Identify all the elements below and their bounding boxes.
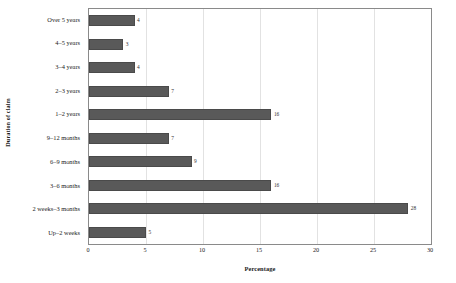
bar-value-label: 5 bbox=[149, 230, 152, 235]
bars-layer: 4 3 4 7 16 7 9 16 28 5 bbox=[89, 9, 431, 244]
x-axis-title: Percentage bbox=[88, 265, 432, 272]
x-axis-tick-labels: 051015202530 bbox=[88, 247, 432, 259]
y-tick-label-row: Over 5 years bbox=[14, 8, 84, 32]
bar-value-label: 4 bbox=[137, 65, 140, 70]
x-tick-label: 20 bbox=[313, 247, 319, 253]
x-tick-label: 25 bbox=[370, 247, 376, 253]
bar bbox=[89, 15, 135, 26]
bar-value-label: 16 bbox=[274, 183, 279, 188]
y-tick-label: Over 5 years bbox=[47, 17, 80, 23]
y-tick-label-row: 4–5 years bbox=[14, 32, 84, 56]
bar-row: 16 bbox=[89, 174, 431, 198]
y-tick-label-row: 3–4 years bbox=[14, 55, 84, 79]
bar bbox=[89, 156, 192, 167]
bar-value-label: 7 bbox=[171, 89, 174, 94]
y-tick-label-row: 2 weeks–3 months bbox=[14, 198, 84, 222]
bar-row: 16 bbox=[89, 103, 431, 127]
bar bbox=[89, 109, 271, 120]
y-tick-label-row: 9–12 months bbox=[14, 127, 84, 151]
y-tick-label: 1–2 years bbox=[55, 111, 80, 117]
x-tick-label: 10 bbox=[199, 247, 205, 253]
bar bbox=[89, 86, 169, 97]
y-tick-label-row: 3–6 months bbox=[14, 174, 84, 198]
x-tick-label: 30 bbox=[427, 247, 433, 253]
bar-row: 9 bbox=[89, 150, 431, 174]
bar bbox=[89, 62, 135, 73]
y-tick-label: 6–9 months bbox=[50, 159, 80, 165]
bar-row: 28 bbox=[89, 197, 431, 221]
bar-value-label: 9 bbox=[194, 159, 197, 164]
bar-row: 4 bbox=[89, 9, 431, 33]
bar-row: 3 bbox=[89, 33, 431, 57]
x-tick-label: 15 bbox=[256, 247, 262, 253]
y-tick-label-row: 2–3 years bbox=[14, 79, 84, 103]
y-axis-tick-labels: Over 5 years 4–5 years 3–4 years 2–3 yea… bbox=[14, 8, 84, 245]
bar-value-label: 4 bbox=[137, 18, 140, 23]
y-tick-label-row: 6–9 months bbox=[14, 150, 84, 174]
bar-row: 4 bbox=[89, 56, 431, 80]
y-tick-label: 2 weeks–3 months bbox=[32, 206, 80, 212]
x-tick-label: 0 bbox=[86, 247, 89, 253]
y-axis-title: Duration of claim bbox=[0, 0, 14, 245]
bar-value-label: 16 bbox=[274, 112, 279, 117]
y-tick-label: 3–6 months bbox=[50, 183, 80, 189]
bar bbox=[89, 180, 271, 191]
y-axis-title-label: Duration of claim bbox=[4, 98, 11, 146]
bar-value-label: 3 bbox=[126, 42, 129, 47]
y-tick-label: 2–3 years bbox=[55, 88, 80, 94]
y-tick-label: Up–2 weeks bbox=[48, 230, 80, 236]
bar bbox=[89, 39, 123, 50]
y-tick-label-row: Up–2 weeks bbox=[14, 221, 84, 245]
bar bbox=[89, 133, 169, 144]
bar-row: 5 bbox=[89, 221, 431, 245]
x-tick-label: 5 bbox=[143, 247, 146, 253]
bar-value-label: 7 bbox=[171, 136, 174, 141]
y-tick-label: 9–12 months bbox=[47, 135, 80, 141]
y-tick-label: 3–4 years bbox=[55, 64, 80, 70]
bar-row: 7 bbox=[89, 80, 431, 104]
y-tick-label: 4–5 years bbox=[55, 40, 80, 46]
bar bbox=[89, 203, 408, 214]
plot-area: 4 3 4 7 16 7 9 16 28 5 bbox=[88, 8, 432, 245]
bar-row: 7 bbox=[89, 127, 431, 151]
bar-value-label: 28 bbox=[411, 206, 416, 211]
bar bbox=[89, 227, 146, 238]
bar-chart-figure: Duration of claim Over 5 years 4–5 years… bbox=[0, 0, 456, 283]
y-tick-label-row: 1–2 years bbox=[14, 103, 84, 127]
